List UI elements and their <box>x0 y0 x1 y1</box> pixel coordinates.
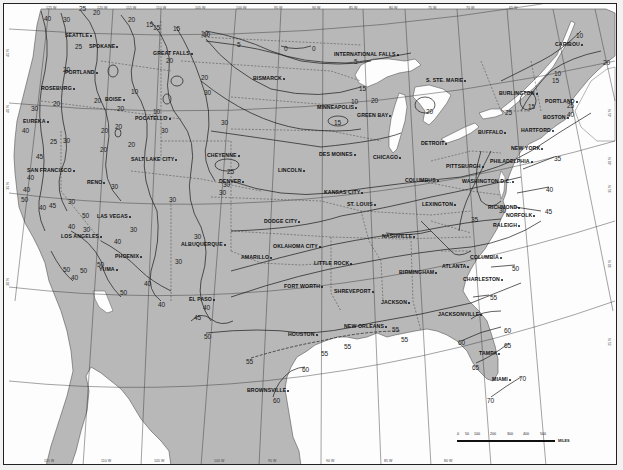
city-label: AMARILLO <box>241 254 273 260</box>
city-label: JACKSON <box>381 299 411 305</box>
city-label: EUREKA <box>23 118 50 124</box>
city-dot-icon <box>399 157 401 159</box>
isotherm-value: 25 <box>79 5 86 12</box>
isotherm-value: 30 <box>194 233 201 240</box>
isotherm-value: 20 <box>100 146 107 153</box>
city-name: BIRMINGHAM <box>399 269 434 275</box>
city-dot-icon <box>501 279 503 281</box>
city-name: SPOKANE <box>89 43 115 49</box>
city-dot-icon <box>518 225 520 227</box>
city-label: PITTSBURGH <box>446 163 485 169</box>
scale-bar-line <box>457 440 555 442</box>
city-name: WASHINGTON D.C. <box>462 178 511 184</box>
city-name: PITTSBURGH <box>446 163 481 169</box>
coordinate-tick: 85 W <box>384 459 392 463</box>
city-name: TAMPA <box>479 350 497 356</box>
city-name: POCATELLO <box>135 115 168 121</box>
isotherm-value: 20 <box>603 59 610 66</box>
city-label: ALBUQUERQUE <box>181 241 227 247</box>
land-mass <box>14 9 615 465</box>
city-label: OKLAHOMA CITY <box>273 243 322 249</box>
isotherm-value: 50 <box>120 289 127 296</box>
city-label: PORTLAND <box>65 69 99 75</box>
city-label: RENO <box>87 179 106 185</box>
city-name: NORFOLK <box>506 212 532 218</box>
city-dot-icon <box>536 93 538 95</box>
city-label: LAS VEGAS <box>97 213 132 219</box>
city-label: SPOKANE <box>89 43 119 49</box>
city-label: SHREVEPORT <box>334 288 375 294</box>
isotherm-value: 55 <box>490 294 497 301</box>
city-label: YUMA <box>99 266 119 272</box>
city-dot-icon <box>437 180 439 182</box>
city-dot-icon <box>397 54 399 56</box>
city-dot-icon <box>47 121 49 123</box>
city-dot-icon <box>129 216 131 218</box>
city-name: SHREVEPORT <box>334 288 371 294</box>
isotherm-value: 30 <box>130 226 137 233</box>
isotherm-value: 20 <box>166 57 173 64</box>
isotherm-value: 0 <box>284 45 288 52</box>
city-dot-icon <box>242 181 244 183</box>
city-name: DES MOINES <box>319 151 353 157</box>
city-label: POCATELLO <box>135 115 172 121</box>
city-label: LITTLE ROCK <box>314 260 353 266</box>
coordinate-tick: 95 W <box>268 459 276 463</box>
city-name: BISMARCK <box>253 75 282 81</box>
isotherm-value: 10 <box>201 30 208 37</box>
isotherm-value: 10 <box>131 88 138 95</box>
city-dot-icon <box>169 118 171 120</box>
city-name: OKLAHOMA CITY <box>273 243 318 249</box>
city-label: BROWNSVILLE <box>247 387 290 393</box>
city-name: S. STE. MARIE <box>426 77 463 83</box>
city-name: KANSAS CITY <box>324 189 360 195</box>
city-dot-icon <box>498 353 500 355</box>
isotherm-value: 70 <box>487 397 494 404</box>
scale-tick: 500 <box>540 432 546 436</box>
city-name: CHEYENNE <box>207 152 237 158</box>
coordinate-tick: 105 W <box>154 459 164 463</box>
city-label: JACKSONVILLE <box>438 311 483 317</box>
coordinate-tick: 35 N <box>608 185 612 193</box>
city-name: COLUMBUS <box>405 177 436 183</box>
isotherm-value: 30 <box>63 137 70 144</box>
city-label: SALT LAKE CITY <box>131 156 178 162</box>
coordinate-tick: 70 W <box>466 6 474 10</box>
city-dot-icon <box>224 244 226 246</box>
isotherm-value: 30 <box>63 16 70 23</box>
city-label: GREAT FALLS <box>153 50 194 56</box>
coordinate-tick: 100 W <box>236 6 246 10</box>
coordinate-tick: 65 W <box>509 6 517 10</box>
city-label: COLUMBIA <box>470 254 503 260</box>
isotherm-value: 15 <box>552 77 559 84</box>
isotherm-value: 25 <box>50 138 57 145</box>
city-dot-icon <box>270 257 272 259</box>
coordinate-tick: 115 W <box>44 459 54 463</box>
city-dot-icon <box>238 155 240 157</box>
isotherm-value: 60 <box>458 339 465 346</box>
city-label: CHICAGO <box>373 154 402 160</box>
city-label: DETROIT <box>421 140 448 146</box>
isotherm-value: 55 <box>401 336 408 343</box>
city-name: RALEIGH <box>493 222 517 228</box>
city-name: SAN FRANCISCO <box>27 167 72 173</box>
map-frame: 125 W120 W115 W110 W105 W100 W95 W90 W85… <box>3 3 617 465</box>
city-dot-icon <box>354 154 356 156</box>
city-label: S. STE. MARIE <box>426 77 467 83</box>
city-dot-icon <box>175 159 177 161</box>
city-dot-icon <box>541 148 543 150</box>
city-name: HARTFORD <box>521 127 551 133</box>
city-label: BURLINGTON <box>499 90 539 96</box>
isotherm-value: 25 <box>505 109 512 116</box>
coordinate-tick: 75 W <box>428 6 436 10</box>
city-label: NASHVILLE <box>382 233 416 239</box>
scale-tick: 200 <box>490 432 496 436</box>
city-dot-icon <box>140 256 142 258</box>
city-dot-icon <box>355 107 357 109</box>
city-label: NEW ORLEANS <box>344 323 388 329</box>
coordinate-tick: 110 W <box>101 459 111 463</box>
coordinate-tick: 80 W <box>389 6 397 10</box>
isotherm-value: 40 <box>114 238 121 245</box>
isotherm-value: 25 <box>227 168 234 175</box>
scale-tick: 100 <box>474 432 480 436</box>
